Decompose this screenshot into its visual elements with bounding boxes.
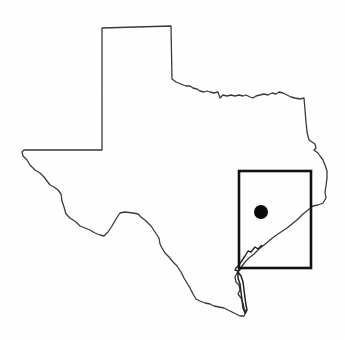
location-marker-dot [254, 205, 268, 219]
inset-box [239, 171, 311, 268]
map-canvas [0, 0, 346, 340]
texas-locator-map [0, 0, 346, 340]
